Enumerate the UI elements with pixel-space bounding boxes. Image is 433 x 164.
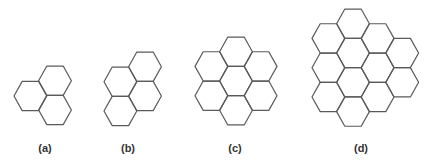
hexagon-cell [220, 66, 253, 95]
hexagon-cell [312, 82, 345, 111]
hexagon-cell [337, 38, 370, 67]
hexagon-cell [39, 95, 72, 124]
panel-b-label: (b) [121, 142, 135, 154]
hexagon-cell [312, 24, 345, 53]
hexagon-cell [244, 81, 277, 110]
hexagon-cell [386, 38, 419, 67]
panel-d-label: (d) [354, 142, 368, 154]
panel-a-hexagons [14, 66, 71, 125]
hexagon-cell [244, 52, 277, 81]
hexagon-cell [337, 68, 370, 97]
hexagon-cell [312, 53, 345, 82]
hexagon-cell [220, 96, 253, 125]
hexagon-cell [361, 24, 394, 53]
panel-c-hexagons [195, 37, 277, 125]
panel-a-label: (a) [38, 142, 51, 154]
hexagon-cell [361, 82, 394, 111]
hexagon-cell [361, 53, 394, 82]
hexagon-cell [386, 68, 419, 97]
hexagon-cell [195, 81, 228, 110]
hexagon-cell [195, 52, 228, 81]
hexagon-cluster-diagram [0, 0, 433, 164]
hexagon-cell [337, 97, 370, 126]
hexagon-cell [337, 9, 370, 38]
panel-d-hexagons [312, 9, 419, 126]
panel-b-hexagons [104, 52, 161, 126]
hexagon-cell [220, 37, 253, 66]
panel-c-label: (c) [228, 142, 241, 154]
